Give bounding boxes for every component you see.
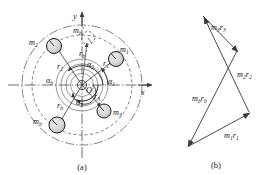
figure-root: m1 m2 m3 mb mb′ r1 r2 r3: [0, 0, 268, 175]
label-axis-x: x: [140, 88, 145, 97]
label-radius-r2: r2: [57, 62, 63, 72]
vector-m1r1: [189, 113, 250, 146]
balancing-figure-svg: m1 m2 m3 mb mb′ r1 r2 r3: [0, 0, 268, 175]
vector-m3r3: [203, 16, 238, 52]
label-angle-alphab: αb: [46, 76, 53, 86]
panel-a: m1 m2 m3 mb mb′ r1 r2 r3: [8, 12, 152, 172]
caption-panel-a: (a): [77, 162, 87, 172]
label-mass-mb: mb: [33, 117, 42, 127]
panel-b: m3r3 m2r2 m1r1 mbrb (b): [188, 16, 252, 170]
mass-body-mb: [49, 117, 65, 133]
label-radius-rb-prime: rb′: [79, 49, 87, 59]
label-axis-y: y: [72, 12, 77, 21]
caption-panel-b: (b): [211, 160, 221, 170]
label-radius-rb: rb: [57, 101, 63, 111]
label-angle-alpha1: α1: [108, 77, 115, 87]
mass-body-m2: [47, 39, 62, 54]
label-radius-r3: r3: [94, 92, 100, 102]
label-origin-O: O: [86, 86, 92, 95]
mass-body-m3: [97, 104, 111, 118]
label-vector-mbrb: mbrb: [192, 94, 207, 104]
label-vector-m3r3: m3r3: [211, 23, 226, 33]
label-vector-m1r1: m1r1: [224, 131, 239, 141]
label-mass-m2: m2: [29, 38, 38, 48]
mass-mb-prime-hatch: [88, 38, 92, 43]
label-mass-mb-prime: mb′: [73, 26, 84, 36]
label-vector-m2r2: m2r2: [237, 70, 252, 80]
label-mass-m3: m3: [113, 108, 122, 118]
angle-sweep-alpha1: [101, 68, 108, 85]
label-mass-m1: m1: [120, 45, 129, 55]
